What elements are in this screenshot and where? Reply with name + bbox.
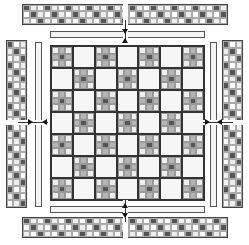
nine-patch-block — [182, 178, 204, 200]
patch-square — [190, 179, 197, 186]
patch-square — [196, 91, 203, 98]
patch-square — [109, 135, 116, 142]
patch-square — [139, 142, 146, 149]
checker-square — [20, 138, 26, 145]
patch-square — [96, 91, 103, 98]
patch-square — [80, 69, 87, 76]
patch-square — [102, 60, 109, 67]
patch-square — [52, 135, 59, 142]
patch-square — [146, 186, 153, 193]
patch-square — [59, 104, 66, 111]
patch-square — [168, 113, 175, 120]
checker-square — [236, 82, 242, 89]
checker-square — [20, 62, 26, 69]
patch-square — [146, 91, 153, 98]
patch-square — [190, 142, 197, 149]
patch-square — [153, 135, 160, 142]
nine-patch-block — [95, 90, 117, 112]
checker-square — [157, 18, 164, 24]
patch-square — [118, 157, 125, 164]
patch-square — [175, 164, 182, 171]
plain-block — [117, 46, 139, 68]
checker-square — [114, 18, 121, 24]
patch-square — [131, 126, 138, 133]
patch-square — [102, 54, 109, 61]
checker-square — [65, 231, 72, 237]
patch-square — [168, 157, 175, 164]
nine-patch-block — [117, 68, 139, 90]
checker-square — [220, 231, 227, 237]
checker-square — [20, 131, 26, 138]
patch-square — [161, 126, 168, 133]
patch-square — [59, 142, 66, 149]
checker-square — [236, 186, 242, 193]
patch-square — [146, 179, 153, 186]
patch-square — [87, 157, 94, 164]
patch-square — [118, 170, 125, 177]
checker-square — [20, 89, 26, 96]
patch-square — [109, 104, 116, 111]
patch-square — [52, 192, 59, 199]
patch-square — [65, 192, 72, 199]
checker-square — [100, 231, 107, 237]
patch-square — [124, 126, 131, 133]
patch-square — [183, 135, 190, 142]
plain-block — [117, 90, 139, 112]
checker-square — [143, 231, 150, 237]
nine-patch-block — [51, 134, 73, 156]
checker-square — [220, 18, 227, 24]
patch-square — [183, 91, 190, 98]
checker-square — [37, 18, 44, 24]
patch-square — [87, 69, 94, 76]
nine-patch-block — [73, 68, 95, 90]
patch-square — [87, 82, 94, 89]
checker-square — [185, 18, 192, 24]
checker-square — [79, 231, 86, 237]
plain-block — [51, 156, 73, 178]
plain-block — [160, 90, 182, 112]
patch-square — [109, 47, 116, 54]
patch-square — [96, 98, 103, 105]
checker-square — [107, 231, 114, 237]
arrow-up-icon — [122, 203, 128, 208]
patch-square — [161, 76, 168, 83]
patch-square — [124, 76, 131, 83]
patch-square — [74, 82, 81, 89]
patch-square — [80, 164, 87, 171]
patch-square — [102, 91, 109, 98]
patch-square — [153, 186, 160, 193]
checker-square — [44, 231, 51, 237]
plain-block — [117, 134, 139, 156]
patch-square — [139, 60, 146, 67]
patch-square — [102, 186, 109, 193]
patch-square — [74, 126, 81, 133]
plain-block — [73, 134, 95, 156]
patch-square — [139, 135, 146, 142]
checker-square — [236, 62, 242, 69]
patch-square — [96, 47, 103, 54]
plain-block — [51, 68, 73, 90]
checker-square — [157, 231, 164, 237]
patch-square — [131, 157, 138, 164]
patch-square — [190, 135, 197, 142]
nine-patch-block — [95, 178, 117, 200]
nine-patch-block — [51, 178, 73, 200]
checker-square — [206, 231, 213, 237]
nine-patch-block — [160, 68, 182, 90]
patch-square — [153, 47, 160, 54]
patch-square — [96, 54, 103, 61]
patch-square — [65, 91, 72, 98]
patch-square — [59, 60, 66, 67]
checker-square — [164, 231, 171, 237]
patch-square — [153, 60, 160, 67]
patch-square — [146, 98, 153, 105]
patch-square — [131, 164, 138, 171]
nine-patch-block — [182, 134, 204, 156]
patch-square — [87, 76, 94, 83]
patch-square — [80, 120, 87, 127]
arrow-down-icon — [122, 29, 128, 34]
patch-square — [80, 126, 87, 133]
patch-square — [190, 98, 197, 105]
checker-square — [20, 152, 26, 159]
nine-patch-block — [117, 112, 139, 134]
